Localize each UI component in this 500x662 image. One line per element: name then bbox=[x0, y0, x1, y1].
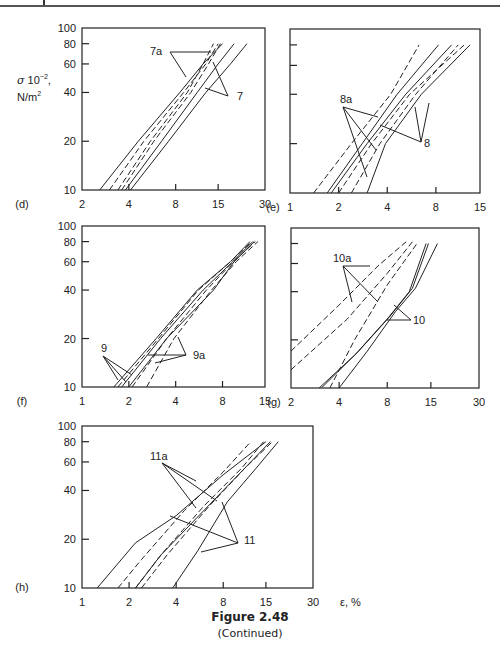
y-tick-label: 40 bbox=[64, 284, 76, 296]
y-tick-label: 40 bbox=[64, 484, 76, 496]
curve-9 bbox=[129, 242, 255, 387]
plot-frame bbox=[82, 426, 313, 588]
panel-label: (g) bbox=[267, 396, 280, 408]
callout-label: 7 bbox=[237, 90, 243, 102]
curve-7a bbox=[122, 44, 221, 190]
x-tick-label: 2 bbox=[79, 198, 85, 210]
x-tick-label: 4 bbox=[336, 396, 342, 408]
callout-leader bbox=[394, 305, 411, 320]
curve-9a bbox=[132, 242, 255, 387]
x-tick-label: 8 bbox=[219, 395, 225, 407]
x-tick-label: 30 bbox=[473, 396, 485, 408]
x-tick-label: 15 bbox=[212, 198, 224, 210]
y-tick-label: 10 bbox=[64, 582, 76, 594]
y-axis-label-exp: −2 bbox=[40, 73, 48, 80]
callout-leader bbox=[343, 107, 376, 150]
curve-11a bbox=[142, 442, 273, 588]
x-tick-label: 1 bbox=[287, 201, 293, 213]
callout-leader bbox=[162, 463, 217, 501]
x-tick-label: 8 bbox=[433, 201, 439, 213]
y-tick-label: 100 bbox=[58, 420, 76, 432]
x-tick-label: 30 bbox=[307, 596, 319, 608]
panel-label: (f) bbox=[17, 395, 27, 407]
callout-label: 10a bbox=[333, 252, 352, 264]
y-tick-label: 80 bbox=[64, 236, 76, 248]
figure-2-48: 10204060801002481530(d)7a7124815(e)8a810… bbox=[0, 0, 500, 662]
curve-7 bbox=[125, 44, 234, 190]
panel-f: 1020406080100124815(f)99a bbox=[17, 220, 271, 407]
x-tick-label: 8 bbox=[384, 396, 390, 408]
panel-e: 124815(e)8a8 bbox=[266, 29, 486, 213]
y-tick-label: 60 bbox=[64, 256, 76, 268]
callout-leader bbox=[415, 107, 421, 142]
curve-11 bbox=[173, 442, 279, 588]
panel-label: (h) bbox=[15, 581, 28, 593]
callout-leader bbox=[213, 62, 228, 96]
panel-g: 2481530(g)10a10 bbox=[267, 228, 485, 408]
x-tick-label: 4 bbox=[173, 596, 179, 608]
callout-leader bbox=[162, 463, 196, 481]
y-tick-label: 40 bbox=[64, 86, 76, 98]
x-tick-label: 2 bbox=[126, 596, 132, 608]
y-axis-label-units: N/m bbox=[17, 90, 37, 102]
curve-8a bbox=[339, 45, 465, 193]
curve-8 bbox=[327, 45, 438, 193]
x-tick-label: 4 bbox=[126, 198, 132, 210]
x-tick-label: 1 bbox=[79, 596, 85, 608]
callout-label: 9a bbox=[193, 349, 206, 361]
callout-leader bbox=[103, 356, 118, 380]
y-tick-label: 100 bbox=[58, 220, 76, 232]
callout-leader bbox=[162, 463, 196, 508]
x-tick-label: 1 bbox=[79, 395, 85, 407]
callout-leader bbox=[380, 125, 421, 142]
curve-8a bbox=[351, 45, 458, 193]
curve-8 bbox=[331, 45, 451, 193]
callout-leader bbox=[343, 266, 378, 302]
callout-leader bbox=[343, 266, 352, 302]
callout-label: 9 bbox=[101, 342, 107, 354]
callout-leader bbox=[170, 516, 238, 543]
plot-frame bbox=[291, 228, 479, 388]
callout-label: 11a bbox=[150, 450, 168, 462]
y-tick-label: 20 bbox=[64, 533, 76, 545]
x-tick-label: 15 bbox=[474, 201, 486, 213]
x-tick-label: 8 bbox=[220, 596, 226, 608]
y-tick-label: 100 bbox=[58, 22, 76, 34]
y-tick-label: 80 bbox=[64, 38, 76, 50]
x-tick-label: 2 bbox=[126, 395, 132, 407]
callout-leader bbox=[178, 337, 186, 355]
curve-11 bbox=[97, 442, 266, 588]
y-tick-label: 20 bbox=[64, 135, 76, 147]
panel-label: (d) bbox=[15, 198, 28, 210]
y-axis-label-scale: 10 bbox=[28, 74, 40, 86]
callout-label: 11 bbox=[244, 534, 255, 546]
callout-label: 7a bbox=[150, 45, 163, 57]
x-tick-label: 2 bbox=[336, 201, 342, 213]
x-axis-label: ε, % bbox=[340, 596, 361, 608]
y-tick-label: 60 bbox=[64, 58, 76, 70]
figure-caption-title: Figure 2.48 bbox=[0, 610, 500, 624]
y-tick-label: 10 bbox=[64, 381, 76, 393]
panel-label: (e) bbox=[266, 201, 279, 213]
callout-leader bbox=[170, 52, 186, 77]
y-axis-label: σ 10−2, N/m2 bbox=[17, 70, 51, 103]
curve-7a bbox=[118, 44, 214, 190]
x-tick-label: 4 bbox=[173, 395, 179, 407]
callout-leader bbox=[201, 543, 238, 552]
callout-label: 10 bbox=[413, 314, 425, 326]
x-tick-label: 15 bbox=[260, 596, 272, 608]
x-tick-label: 4 bbox=[384, 201, 390, 213]
x-tick-label: 2 bbox=[288, 396, 294, 408]
callout-leader bbox=[155, 355, 186, 363]
x-tick-label: 15 bbox=[425, 396, 437, 408]
callout-label: 8a bbox=[340, 93, 353, 105]
curve-11a bbox=[118, 442, 251, 588]
figure-caption-subtitle: (Continued) bbox=[0, 627, 500, 640]
callout-leader bbox=[343, 107, 378, 117]
curve-9a bbox=[147, 242, 258, 387]
y-axis-label-symbol: σ bbox=[17, 74, 25, 87]
y-tick-label: 60 bbox=[64, 456, 76, 468]
y-tick-label: 80 bbox=[64, 436, 76, 448]
y-tick-label: 10 bbox=[64, 184, 76, 196]
x-tick-label: 8 bbox=[173, 198, 179, 210]
